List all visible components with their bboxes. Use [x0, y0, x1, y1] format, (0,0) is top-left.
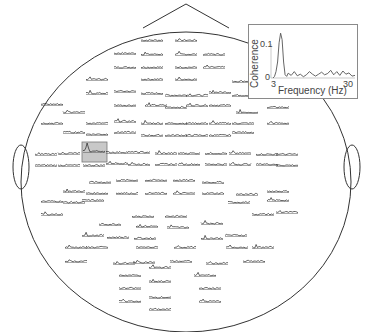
electrode-trace [63, 189, 85, 192]
electrode-trace [58, 164, 80, 166]
electrode-trace [86, 90, 108, 94]
inset-plot: Coherence 0.1 0 3 30 Frequency (Hz) [248, 24, 358, 99]
electrode-trace [145, 103, 167, 106]
electrode-trace [155, 163, 177, 165]
electrode-trace [165, 123, 187, 125]
electrode-trace [86, 77, 108, 80]
electrode-trace [165, 106, 187, 108]
electrode-trace [205, 164, 227, 166]
electrode-trace [229, 151, 251, 154]
electrode-trace [267, 198, 289, 201]
electrode-trace [209, 90, 231, 93]
electrode-trace [141, 135, 163, 137]
electrode-trace [199, 288, 221, 290]
electrode-trace [58, 153, 80, 155]
inset-ytick-0.1: 0.1 [260, 39, 273, 49]
electrode-trace [63, 110, 85, 113]
electrode-trace [86, 246, 108, 248]
electrode-trace [136, 224, 158, 227]
electrode-trace [167, 225, 189, 228]
electrode-trace [206, 262, 228, 264]
electrode-trace [186, 122, 208, 124]
electrode-trace [114, 67, 136, 68]
electrode-trace [236, 193, 258, 195]
electrode-trace [149, 308, 171, 309]
nose-icon [143, 4, 229, 28]
electrode-trace [202, 181, 224, 183]
electrode-trace [86, 123, 108, 124]
electrode-trace [252, 214, 274, 215]
electrode-trace [41, 201, 63, 202]
electrode-trace [134, 237, 156, 239]
inset-xlabel: Frequency (Hz) [278, 85, 347, 96]
electrode-trace [116, 192, 138, 194]
electrode-trace [89, 181, 111, 183]
electrode-trace [82, 232, 104, 236]
electrode-trace [116, 179, 138, 180]
electrode-trace [128, 151, 150, 153]
electrode-trace [145, 179, 167, 180]
electrode-trace [114, 131, 136, 133]
electrode-trace [141, 79, 163, 81]
electrode-trace [178, 153, 200, 154]
electrode-trace [65, 245, 87, 248]
electrode-trace [63, 131, 85, 133]
inset-ytick-0: 0 [265, 72, 270, 82]
electrode-trace [106, 152, 128, 154]
electrode-trace [35, 153, 57, 155]
electrode-trace [175, 67, 197, 68]
electrode-trace [128, 162, 150, 165]
electrode-trace [186, 103, 208, 106]
inset-ylabel: Coherence [249, 39, 260, 88]
electrode-trace [114, 105, 136, 106]
electrode-trace [86, 192, 108, 194]
electrode-trace [194, 272, 216, 276]
electrode-trace [229, 162, 251, 165]
inset-xtick-3: 3 [271, 79, 276, 89]
electrode-trace [256, 164, 278, 165]
electrode-trace [114, 119, 136, 122]
electrode-trace [178, 163, 200, 165]
electrode-trace [119, 287, 141, 288]
electrode-trace [165, 135, 187, 137]
electrode-trace [228, 202, 250, 203]
electrode-trace [141, 40, 163, 41]
electrode-trace [136, 247, 158, 248]
inset-coherence-line [273, 33, 355, 78]
electrode-trace [209, 121, 231, 124]
electrode-trace [232, 123, 254, 124]
electrode-trace [203, 53, 225, 55]
electrode-trace [149, 297, 171, 299]
electrode-trace [232, 132, 254, 134]
electrode-trace [236, 110, 258, 113]
electrode-trace [175, 51, 197, 55]
electrode-trace [201, 221, 223, 225]
electrode-trace [199, 299, 221, 302]
electrode-trace [107, 237, 129, 239]
electrode-trace [82, 200, 104, 201]
electrode-trace [41, 212, 63, 215]
electrode-trace [99, 224, 121, 226]
electrode-trace [243, 260, 265, 261]
electrode-trace [141, 52, 163, 55]
electrode-trace [149, 265, 171, 268]
electrode-trace [267, 191, 289, 193]
electrode-trace [175, 39, 197, 41]
electrode-trace [276, 211, 298, 213]
electrode-trace [202, 193, 224, 194]
electrode-trace [114, 91, 136, 92]
electrode-trace [173, 179, 195, 180]
electrode-trace [63, 201, 85, 203]
electrode-trace [209, 134, 231, 136]
electrode-trace [86, 134, 108, 135]
coherence-topoplot: Coherence 0.1 0 3 30 Frequency (Hz) [0, 0, 372, 332]
electrode-trace [141, 120, 163, 124]
electrode-trace [113, 262, 135, 264]
electrode-trace [141, 93, 163, 94]
electrode-trace [141, 67, 163, 69]
electrode-trace [119, 299, 141, 302]
electrode-trace [170, 261, 192, 262]
electrode-trace [256, 154, 278, 155]
electrode-trace [119, 275, 141, 276]
right-ear-icon [344, 145, 360, 189]
